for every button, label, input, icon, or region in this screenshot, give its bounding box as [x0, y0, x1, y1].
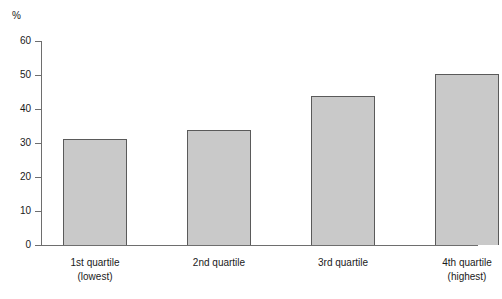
- y-axis-tick-label: 30: [0, 138, 31, 148]
- y-axis-tick-label-text: 40: [3, 104, 31, 114]
- x-axis-category-label-line1: 2nd quartile: [193, 257, 245, 268]
- y-axis-tick: [35, 75, 41, 76]
- bar: [435, 74, 499, 245]
- y-axis-tick-label-text: 20: [3, 172, 31, 182]
- y-axis-tick: [35, 245, 41, 246]
- y-axis-tick-label: 40: [0, 104, 31, 114]
- bar: [63, 139, 127, 245]
- x-axis-category-label: 3rd quartile: [293, 256, 393, 270]
- bar: [311, 96, 375, 245]
- x-axis-category-label-line1: 4th quartile: [442, 257, 491, 268]
- x-axis-category-label-line2: (lowest): [45, 270, 145, 284]
- y-axis-tick: [35, 211, 41, 212]
- y-axis-tick-label-text: 30: [3, 138, 31, 148]
- x-axis-category-label: 1st quartile(lowest): [45, 256, 145, 284]
- y-axis-tick-label: 10: [0, 206, 31, 216]
- x-axis-category-label: 4th quartile(highest): [417, 256, 502, 284]
- plot-area: 0102030405060 1st quartile(lowest)2nd qu…: [0, 0, 502, 299]
- x-axis-category-label-line1: 1st quartile: [71, 257, 120, 268]
- bar: [187, 130, 251, 245]
- bar-chart: % 0102030405060 1st quartile(lowest)2nd …: [0, 0, 502, 299]
- y-axis-tick: [35, 41, 41, 42]
- y-axis-tick-label-text: 10: [3, 206, 31, 216]
- y-axis-tick-label: 20: [0, 172, 31, 182]
- y-axis-line: [41, 41, 42, 246]
- x-axis-category-label: 2nd quartile: [169, 256, 269, 270]
- y-axis-tick-label: 0: [0, 240, 31, 250]
- y-axis-tick-label: 50: [0, 70, 31, 80]
- y-axis-tick-label: 60: [0, 36, 31, 46]
- y-axis-tick: [35, 109, 41, 110]
- x-axis-category-label-line2: (highest): [417, 270, 502, 284]
- y-axis-tick-label-text: 50: [3, 70, 31, 80]
- y-axis-tick-label-text: 0: [3, 240, 31, 250]
- x-axis-category-label-line1: 3rd quartile: [318, 257, 368, 268]
- y-axis-tick: [35, 143, 41, 144]
- x-axis-line: [41, 245, 478, 246]
- y-axis-tick: [35, 177, 41, 178]
- y-axis-tick-label-text: 60: [3, 36, 31, 46]
